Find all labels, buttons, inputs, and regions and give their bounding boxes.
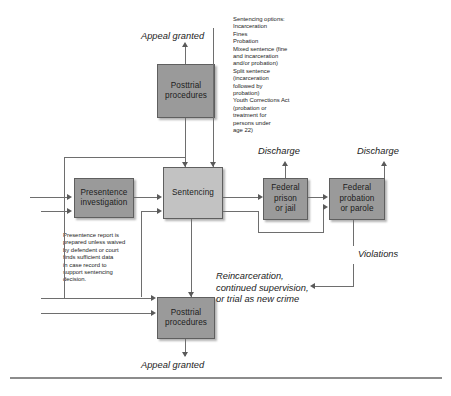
- arrowhead-into-presentence: [67, 194, 72, 200]
- reincarceration-label: Reincarceration, continued supervision, …: [216, 271, 309, 306]
- arrowhead-into-probation-lower: [323, 204, 328, 210]
- connector-to-probation-riser: [323, 207, 324, 232]
- node-posttrial-procedures-bottom-label: Posttrial procedures: [163, 308, 209, 329]
- node-federal-probation-or-parole[interactable]: Federal probation or parole: [329, 178, 385, 220]
- connector-sentencing-right-drop: [258, 211, 259, 232]
- discharge-prison-label: Discharge: [258, 146, 300, 156]
- connector-sentencing-to-posttrial-bottom: [191, 219, 192, 297]
- connector-probation-to-discharge: [384, 166, 385, 178]
- connector-prison-to-probation: [308, 197, 324, 198]
- arrowhead-prison-to-probation: [323, 194, 328, 200]
- connector-presentence-to-sentencing: [134, 197, 158, 198]
- connector-prison-to-discharge: [285, 166, 286, 178]
- connector-posttrial-top-down: [185, 118, 186, 167]
- arrowhead-posttrial-bottom-upper: [151, 295, 156, 301]
- connector-left-long-upper: [41, 298, 152, 299]
- arrowhead-posttrial-bottom-lower: [151, 310, 156, 316]
- arrowhead-reincarceration: [310, 283, 315, 289]
- connector-loop-top-horizontal: [64, 157, 186, 158]
- presentence-note: Presentence report is prepared unless wa…: [63, 232, 147, 284]
- node-federal-prison-or-jail[interactable]: Federal prison or jail: [263, 178, 308, 220]
- connector-to-probation-horizontal: [258, 232, 324, 233]
- discharge-probation-label: Discharge: [357, 146, 399, 156]
- connector-lower-loop-into-sentencing: [141, 211, 158, 212]
- node-posttrial-procedures-bottom[interactable]: Posttrial procedures: [157, 297, 215, 339]
- sentencing-options-annotation: Sentencing options: Incarceration Fines …: [233, 16, 319, 135]
- node-posttrial-procedures-top[interactable]: Posttrial procedures: [157, 64, 215, 118]
- connector-violations-upper: [353, 220, 354, 246]
- node-sentencing-label: Sentencing: [170, 188, 216, 199]
- arrowhead-discharge-prison: [282, 161, 288, 166]
- bottom-divider: [10, 377, 442, 379]
- connector-inbound-presentence-lower: [41, 211, 68, 212]
- connector-options-to-sentencing: [213, 28, 214, 167]
- appeal-granted-bottom-label: Appeal granted: [141, 360, 204, 370]
- node-posttrial-procedures-top-label: Posttrial procedures: [163, 81, 209, 102]
- node-presentence-investigation-label: Presentence investigation: [78, 188, 129, 209]
- node-sentencing[interactable]: Sentencing: [163, 167, 223, 219]
- arrowhead-appeal-granted-bottom: [182, 352, 188, 357]
- flowchart-diagram: Sentencing options: Incarceration Fines …: [0, 0, 451, 396]
- connector-loop-left-vertical: [64, 157, 65, 197]
- connector-posttrial-top-to-appeal: [185, 47, 186, 64]
- violations-label: Violations: [358, 249, 398, 259]
- arrowhead-into-presentence-lower: [67, 208, 72, 214]
- connector-left-spine: [64, 197, 65, 298]
- connector-sentencing-lower-right: [223, 211, 259, 212]
- node-federal-probation-or-parole-label: Federal probation or parole: [337, 183, 376, 215]
- appeal-granted-top-label: Appeal granted: [141, 31, 204, 41]
- connector-loop-riser: [185, 148, 186, 157]
- connector-left-long-lower: [41, 313, 152, 314]
- arrowhead-appeal-granted-top: [182, 42, 188, 47]
- node-presentence-investigation[interactable]: Presentence investigation: [74, 178, 134, 218]
- node-federal-prison-or-jail-label: Federal prison or jail: [269, 183, 301, 215]
- connector-violations-lower: [353, 264, 354, 286]
- connector-inbound-presentence: [30, 197, 68, 198]
- connector-violations-to-reincarceration: [315, 286, 354, 287]
- arrowhead-presentence-to-sentencing: [157, 194, 162, 200]
- arrowhead-lower-into-sentencing: [157, 208, 162, 214]
- arrowhead-discharge-probation: [381, 161, 387, 166]
- connector-sentencing-to-prison: [223, 197, 259, 198]
